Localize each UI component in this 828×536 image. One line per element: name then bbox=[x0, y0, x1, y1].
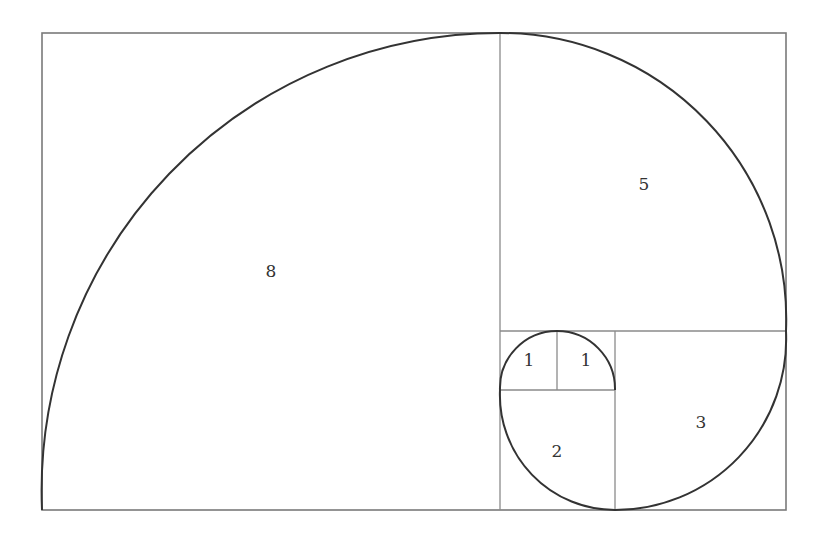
square-label-8: 8 bbox=[266, 261, 277, 281]
outer-rectangle bbox=[42, 33, 786, 510]
square-label-5: 5 bbox=[639, 174, 650, 194]
golden-spiral bbox=[42, 33, 787, 510]
square-label-2: 2 bbox=[552, 441, 563, 461]
square-label-1a: 1 bbox=[524, 350, 535, 370]
square-label-3: 3 bbox=[696, 412, 707, 432]
square-label-1b: 1 bbox=[581, 350, 592, 370]
fibonacci-diagram: 8 5 3 2 1 1 bbox=[0, 0, 828, 536]
